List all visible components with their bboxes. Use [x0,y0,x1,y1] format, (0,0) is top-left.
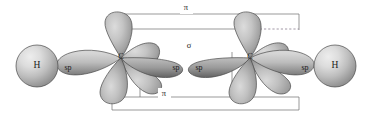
pi-top-guide-frame [112,14,299,30]
pi-top-label-backing [180,2,193,14]
orbital-diagram: H H C C sp sp sp sp π σ π [0,0,371,119]
sigma-label: σ [187,40,192,50]
hydrogen-atom-right: H [314,45,356,87]
carbon-right-p-orbital-up-left [234,12,261,58]
carbon-left-p-orbital-up-left [105,12,132,58]
pi-bottom-label-backing [158,88,171,100]
diagram-canvas: H H C C sp sp sp sp π σ π [0,0,371,119]
hydrogen-atom-left: H [16,45,58,87]
pi-bottom-guide-frame [112,97,299,110]
